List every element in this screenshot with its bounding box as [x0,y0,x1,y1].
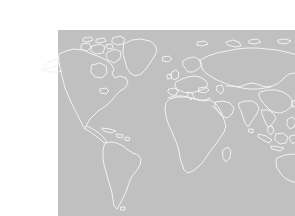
page-canvas: World Map Outline world map showing cont… [0,0,295,216]
map-background-field [58,30,295,216]
world-map-figure: World Map Outline world map showing cont… [40,16,295,216]
map-body [41,30,295,216]
world-map-svg: World Map Outline world map showing cont… [40,16,295,216]
